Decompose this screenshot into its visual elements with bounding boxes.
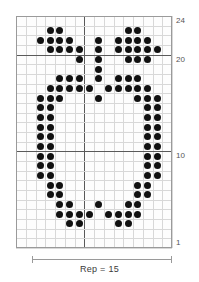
chart-cell-dot [144,95,151,102]
gridline-row-2 [16,229,172,230]
chart-cell-dot [76,85,83,92]
chart-cell-dot [37,124,44,131]
chart-cell-dot [154,114,161,121]
chart-cell-dot [47,46,54,53]
knitting-chart-page: 2420101 Rep = 15 [0,0,199,282]
gridline-row-4 [16,209,172,210]
chart-cell-dot [47,114,54,121]
chart-cell-dot [37,37,44,44]
repeat-bracket-tick-right [171,256,172,263]
chart-cell-dot [125,211,132,218]
chart-cell-dot [66,37,73,44]
chart-cell-dot [47,172,54,179]
chart-cell-dot [125,37,132,44]
gridline-row-23 [16,26,172,27]
chart-cell-dot [47,153,54,160]
chart-cell-dot [47,27,54,34]
row-label-20: 20 [176,56,185,64]
chart-cell-dot [76,56,83,63]
chart-cell-dot [144,37,151,44]
repeat-bracket-line [32,259,172,260]
chart-cell-dot [76,211,83,218]
chart-cell-dot [86,211,93,218]
chart-cell-dot [47,95,54,102]
gridline-row-1 [16,238,172,239]
chart-cell-dot [37,95,44,102]
gridline-row-3 [16,219,172,220]
chart-cell-dot [47,191,54,198]
chart-cell-dot [144,153,151,160]
repeat-bracket-tick-left [32,256,33,263]
chart-cell-dot [125,201,132,208]
gridline-row-5 [16,200,172,201]
chart-cell-dot [37,153,44,160]
gridline-row-19 [16,64,172,65]
gridline-row-10 [16,151,172,152]
gridline-row-13 [16,122,172,123]
chart-cell-dot [115,211,122,218]
gridline-column-16 [172,16,173,248]
stitch-chart[interactable] [16,16,172,248]
chart-cell-dot [154,172,161,179]
chart-cell-dot [47,37,54,44]
chart-cell-dot [47,124,54,131]
chart-cell-dot [154,124,161,131]
chart-cell-dot [154,153,161,160]
chart-cell-dot [37,172,44,179]
row-label-24: 24 [176,17,185,25]
chart-cell-dot [47,133,54,140]
gridline-row-0 [16,248,172,249]
chart-cell-dot [125,75,132,82]
repeat-caption: Rep = 15 [0,264,199,274]
row-label-10: 10 [176,152,185,160]
gridline-row-18 [16,74,172,75]
chart-cell-dot [154,143,161,150]
row-label-1: 1 [176,239,180,247]
chart-cell-dot [47,85,54,92]
gridline-row-24 [16,16,172,17]
chart-cell-dot [125,220,132,227]
chart-cell-dot [125,56,132,63]
gridline-row-22 [16,35,172,36]
chart-cell-dot [37,143,44,150]
chart-cell-dot [115,85,122,92]
chart-cell-dot [125,85,132,92]
chart-cell-dot [47,143,54,150]
chart-cell-dot [144,124,151,131]
chart-cell-dot [37,114,44,121]
chart-cell-dot [144,182,151,189]
chart-cell-dot [125,46,132,53]
gridline-row-7 [16,180,172,181]
gridline-row-16 [16,93,172,94]
chart-cell-dot [154,95,161,102]
chart-cell-dot [86,85,93,92]
chart-cell-dot [125,27,132,34]
chart-cell-dot [66,211,73,218]
chart-cell-dot [47,162,54,169]
chart-cell-dot [47,104,54,111]
chart-cell-dot [47,182,54,189]
repeat-bracket [32,256,172,263]
chart-cell-dot [105,211,112,218]
chart-cell-dot [115,37,122,44]
